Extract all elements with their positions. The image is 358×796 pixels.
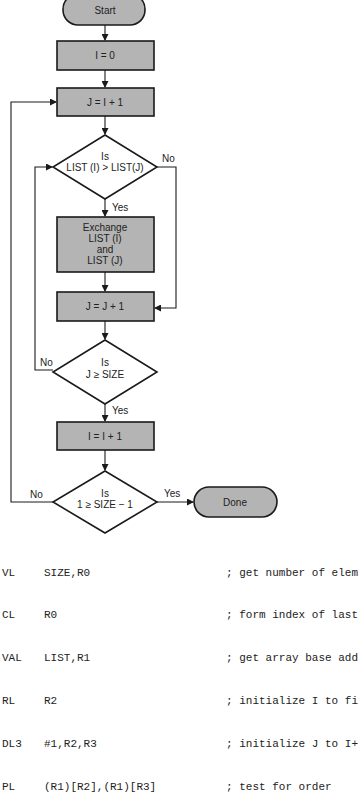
done-label: Done: [223, 497, 247, 508]
inc-i-box: I = I + 1: [57, 422, 154, 450]
code-line: RLR2; initialize I to fi: [0, 694, 358, 708]
inc-j-label: J = J + 1: [86, 301, 125, 312]
code-line: VALLIST,R1; get array base add: [0, 651, 358, 665]
comment: ; initialize J to I+: [226, 737, 358, 751]
decision-j-size-yes-label: Yes: [112, 405, 128, 416]
exchange-line2: LIST (I): [88, 233, 121, 244]
comment: ; form index of last: [226, 608, 358, 622]
opcode: VAL: [0, 651, 44, 665]
decision-j-size-no-label: No: [40, 357, 53, 368]
done-terminal: Done: [194, 487, 277, 517]
init-i-box: I = 0: [57, 41, 154, 70]
no-path-to-compare: [35, 167, 53, 370]
decision-compare-no-label: No: [162, 153, 175, 164]
opcode: RL: [0, 694, 44, 708]
decision-outer-yes-label: Yes: [164, 488, 180, 499]
comment: ; get number of elem: [226, 566, 358, 580]
code-line: VLSIZE,R0; get number of elem: [0, 566, 358, 580]
decision-outer-line1: Is: [101, 488, 109, 499]
comment: ; test for order: [226, 780, 332, 794]
decision-compare-line1: Is: [101, 151, 109, 162]
code-line: PL(R1)[R2],(R1)[R3]; test for order: [0, 780, 358, 794]
exchange-line1: Exchange: [83, 222, 128, 233]
inc-i-label: I = I + 1: [88, 431, 122, 442]
operands: #1,R2,R3: [44, 737, 226, 751]
assembly-listing: VLSIZE,R0; get number of elem CLR0; form…: [0, 537, 358, 796]
operands: LIST,R1: [44, 651, 226, 665]
decision-compare: Is LIST (I) > LIST(J): [53, 135, 157, 199]
opcode: PL: [0, 780, 44, 794]
opcode: DL3: [0, 737, 44, 751]
start-terminal: Start: [63, 0, 145, 25]
comment: ; get array base add: [226, 651, 358, 665]
start-label: Start: [94, 5, 115, 16]
operands: SIZE,R0: [44, 566, 226, 580]
opcode: VL: [0, 566, 44, 580]
code-line: CLR0; form index of last: [0, 608, 358, 622]
no-path-to-init-j: [11, 102, 56, 502]
decision-compare-line2: LIST (I) > LIST(J): [66, 162, 143, 173]
no-path-to-inc-j: [155, 167, 176, 308]
init-j-box: J = I + 1: [57, 88, 154, 116]
exchange-line4: LIST (J): [87, 255, 122, 266]
operands: R0: [44, 608, 226, 622]
init-j-label: J = I + 1: [87, 97, 124, 108]
exchange-box: Exchange LIST (I) and LIST (J): [57, 217, 154, 272]
operands: (R1)[R2],(R1)[R3]: [44, 780, 226, 794]
decision-j-size-line2: J ≥ SIZE: [86, 369, 125, 380]
init-i-label: I = 0: [95, 50, 115, 61]
operands: R2: [44, 694, 226, 708]
decision-j-size-line1: Is: [101, 357, 109, 368]
decision-j-size: Is J ≥ SIZE: [53, 340, 157, 404]
decision-outer-line2: 1 ≥ SIZE − 1: [77, 499, 133, 510]
exchange-line3: and: [97, 244, 114, 255]
comment: ; initialize I to fi: [226, 694, 358, 708]
inc-j-box: J = J + 1: [57, 292, 154, 321]
code-line: DL3#1,R2,R3; initialize J to I+: [0, 737, 358, 751]
opcode: CL: [0, 608, 44, 622]
decision-compare-yes-label: Yes: [112, 202, 128, 213]
decision-outer-no-label: No: [30, 489, 43, 500]
decision-outer: Is 1 ≥ SIZE − 1: [53, 471, 157, 533]
